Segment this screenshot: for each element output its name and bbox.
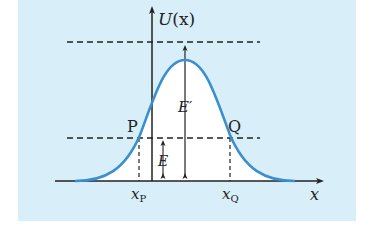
e-label: E (157, 153, 168, 169)
point-p-label: P (127, 117, 138, 136)
x-q-label: xQ (222, 185, 239, 204)
y-axis-label: U(x) (158, 9, 195, 29)
point-q-label: Q (228, 117, 241, 136)
x-p-label: xP (131, 185, 146, 204)
e-prime-label: E′ (177, 98, 193, 116)
potential-diagram: U(x) x P Q xP xQ E′ E (0, 0, 375, 236)
x-axis-label: x (310, 185, 319, 204)
